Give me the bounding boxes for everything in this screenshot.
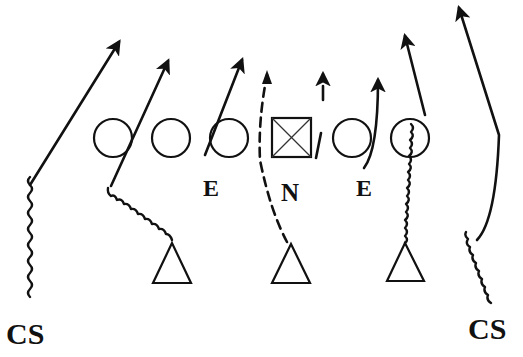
play-diagram: E N E CS CS <box>0 0 523 357</box>
defenders <box>153 243 424 283</box>
route-right-corner-arrow <box>459 8 499 240</box>
defender-triangle-left <box>153 243 191 283</box>
center-square <box>272 118 311 157</box>
route-nose-dashed <box>260 75 287 242</box>
label-left-end: E <box>203 175 219 201</box>
label-left-corner: CS <box>6 317 44 350</box>
lineman-circle-2 <box>152 119 190 157</box>
defender-triangle-middle <box>272 244 310 283</box>
label-right-corner: CS <box>468 312 506 345</box>
route-left-corner-wavy <box>28 177 32 297</box>
defender-triangle-right <box>387 243 424 281</box>
lineman-circle-5 <box>391 119 429 157</box>
arrow-head-icon <box>262 70 272 84</box>
route-right-corner-wavy <box>465 232 491 303</box>
routes <box>28 8 499 303</box>
label-right-end: E <box>356 175 372 201</box>
labels: E N E CS CS <box>6 175 506 350</box>
route-guard-slash <box>316 133 321 158</box>
route-right-triangle-arrow <box>405 36 425 115</box>
route-left-triangle-wavy <box>108 188 172 240</box>
lineman-circle-4 <box>333 119 371 157</box>
route-left-corner-arrow <box>30 42 119 185</box>
label-nose: N <box>281 179 299 206</box>
